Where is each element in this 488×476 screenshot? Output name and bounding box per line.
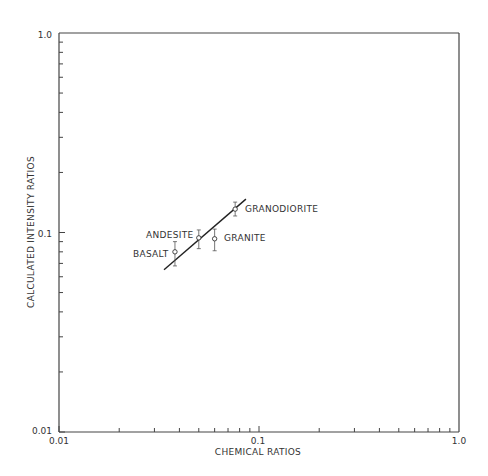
y-axis-title: CALCULATED INTENSITY RATIOS [26,156,36,308]
point-marker [233,207,237,211]
x-axis-title: CHEMICAL RATIOS [215,447,301,457]
data-point-granite [212,229,216,251]
y-axis-ticks [59,42,65,432]
x-tick-label-min: 0.01 [49,436,69,446]
x-axis-ticks [59,426,450,432]
x-tick-label-max: 1.0 [452,436,467,446]
label-granite: GRANITE [224,233,266,243]
point-marker [173,250,177,254]
label-granodiorite: GRANODIORITE [245,204,318,214]
point-marker [212,237,216,241]
point-marker [197,236,201,240]
data-point-andesite [197,230,201,249]
label-basalt: BASALT [133,249,169,259]
chart-canvas: 1.0 0.1 0.01 0.01 0.1 1.0 CHEMICAL RATIO… [0,0,488,476]
data-point-granodiorite [233,202,237,216]
label-andesite: ANDESITE [146,230,193,240]
x-tick-label-mid: 0.1 [251,436,265,446]
y-tick-label-min: 0.01 [32,426,52,436]
y-tick-label-max: 1.0 [38,30,53,40]
y-tick-label-mid: 0.1 [38,229,52,239]
